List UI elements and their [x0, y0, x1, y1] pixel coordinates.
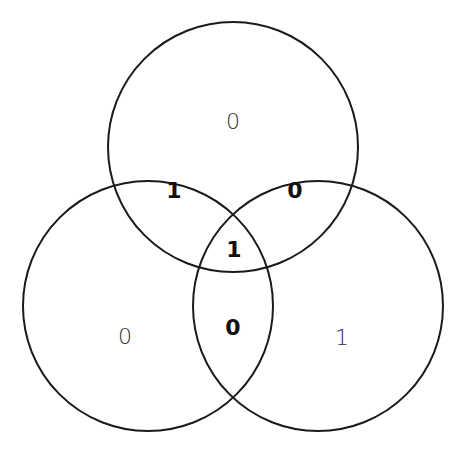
region-top-only: 0	[226, 109, 240, 134]
circle-top	[108, 22, 358, 272]
region-right-only: 1	[335, 325, 349, 350]
circle-right	[193, 181, 443, 431]
region-left-only: 0	[118, 324, 132, 349]
region-all-three: 1	[226, 237, 241, 262]
circle-left	[23, 181, 273, 431]
region-top-left: 1	[166, 178, 181, 203]
region-left-right: 0	[225, 315, 240, 340]
region-top-right: 0	[287, 178, 302, 203]
venn-diagram: 0 1 0 1 0 0 1	[0, 0, 461, 450]
